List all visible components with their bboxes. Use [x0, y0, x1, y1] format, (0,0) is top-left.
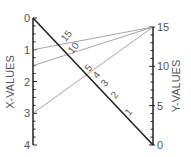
diagonal-tick-label: 1 — [122, 106, 134, 118]
nomogram-chart: 01234 051015 123451015 X-VALUES Y-VALUES — [0, 0, 191, 157]
x-axis-tick-labels: 01234 — [24, 12, 30, 151]
y-axis-tick-label: 5 — [157, 100, 163, 112]
x-axis-tick-label: 1 — [24, 44, 30, 56]
x-axis-tick-label: 2 — [24, 76, 30, 88]
diagonal-tick-labels: 123451015 — [59, 28, 135, 118]
diagonal-scale-line — [33, 18, 153, 145]
y-axis-tick-label: 0 — [157, 139, 163, 151]
x-axis-tick-label: 3 — [24, 107, 30, 119]
y-axis-tick-label: 10 — [157, 60, 169, 72]
y-axis-title: Y-VALUES — [170, 60, 182, 113]
x-axis-title: X-VALUES — [4, 55, 16, 109]
y-axis-tick-labels: 051015 — [157, 21, 169, 151]
y-axis-ticks — [149, 27, 155, 145]
y-axis-tick-label: 15 — [157, 21, 169, 33]
x-axis-tick-label: 0 — [24, 12, 30, 24]
x-axis-tick-label: 4 — [24, 139, 30, 151]
